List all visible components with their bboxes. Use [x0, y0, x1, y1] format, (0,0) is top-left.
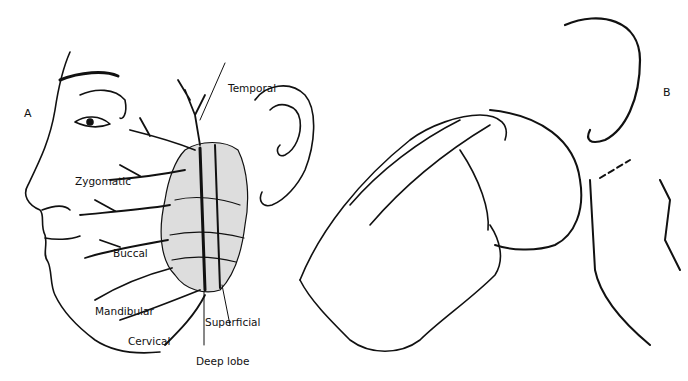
panel-label-b: B: [663, 87, 671, 98]
label-zygomatic: Zygomatic: [75, 176, 131, 187]
label-cervical: Cervical: [128, 336, 170, 347]
label-temporal: Temporal: [228, 83, 276, 94]
parotid-gland-icon: [161, 143, 248, 292]
label-superficial: Superficial: [205, 317, 260, 328]
label-buccal: Buccal: [113, 248, 148, 259]
illustration: [0, 0, 688, 381]
label-deep-lobe: Deep lobe: [196, 356, 249, 367]
label-mandibular: Mandibular: [95, 306, 154, 317]
palpating-hand-icon: [300, 115, 506, 351]
ear-icon: [255, 86, 314, 206]
figure-canvas: A B Temporal Zygomatic Buccal Mandibular…: [0, 0, 688, 381]
neck-and-jaw-icon: [490, 18, 680, 345]
panel-label-a: A: [24, 108, 32, 119]
